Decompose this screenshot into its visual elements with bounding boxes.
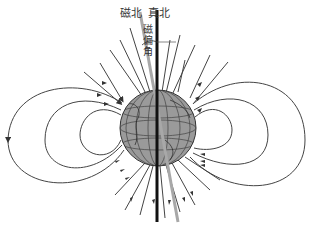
south-polar-arrows	[130, 191, 193, 205]
magnetic-north-label: 磁北	[120, 8, 142, 19]
left-field-loops	[8, 63, 124, 183]
earth-magnetic-field-figure	[0, 0, 312, 230]
declination-label: 磁偏角	[141, 24, 151, 57]
true-north-label: 真北	[148, 8, 170, 19]
right-field-loops	[178, 55, 305, 186]
magnetic-field-diagram: 磁北 真北 磁偏角	[0, 0, 312, 230]
